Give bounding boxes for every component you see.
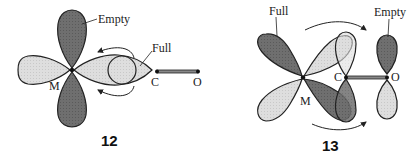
metal-atom-dot xyxy=(70,68,74,72)
figure-number-13: 13 xyxy=(322,137,339,154)
metal-d-lobe-top-empty xyxy=(58,10,87,68)
label-full: Full xyxy=(269,4,289,18)
metal-atom-dot xyxy=(301,75,305,79)
co-pi-star-o-top-empty xyxy=(377,35,397,74)
metal-d-lobe-lower-left xyxy=(258,79,302,121)
carbon-atom-dot xyxy=(155,70,159,74)
oxygen-atom-dot xyxy=(196,70,200,74)
figure-number-12: 12 xyxy=(101,132,118,149)
carbon-atom-dot xyxy=(344,76,348,80)
co-pi-star-o-bottom xyxy=(377,80,397,119)
metal-d-lobe-upper-left-full xyxy=(258,34,302,76)
full-leader xyxy=(140,51,152,66)
co-bond xyxy=(346,76,387,79)
label-oxygen: O xyxy=(193,75,202,89)
diagram-12: Empty Full M C O 12 xyxy=(18,10,202,149)
backdonation-arrow-bottom xyxy=(312,122,366,130)
co-pi-star-c-bottom xyxy=(335,79,356,122)
label-carbon: C xyxy=(334,70,342,84)
label-empty: Empty xyxy=(374,5,406,19)
metal-d-lobe-left xyxy=(18,56,70,85)
co-bond xyxy=(157,70,198,73)
backdonation-arrow-top xyxy=(305,22,366,30)
diagram-13: Full Empty M C O 13 xyxy=(258,4,406,154)
label-empty: Empty xyxy=(98,12,130,26)
oxygen-atom-dot xyxy=(385,76,389,80)
label-metal: M xyxy=(49,79,60,93)
orbital-diagrams: Empty Full M C O 12 Full xyxy=(0,0,416,157)
label-carbon: C xyxy=(151,75,159,89)
donation-arrow-bottom xyxy=(98,86,134,96)
label-metal: M xyxy=(300,94,311,108)
empty-leader xyxy=(388,19,389,37)
full-leader xyxy=(276,17,277,36)
metal-d-lobe-bottom-empty xyxy=(58,72,87,127)
label-full: Full xyxy=(152,41,172,55)
label-oxygen: O xyxy=(391,70,400,84)
